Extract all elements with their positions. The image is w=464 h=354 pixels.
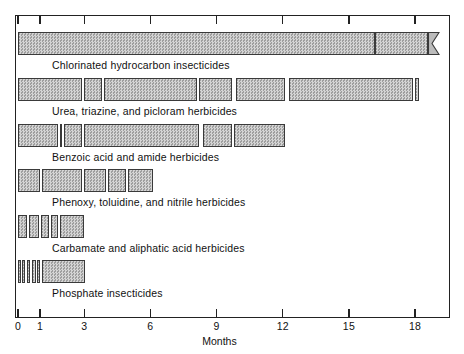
tick-bottom-1 [39,309,40,318]
tick-bottom-9 [216,309,217,318]
bar-segment [18,124,58,147]
tick-bottom-6 [150,309,151,318]
tick-top-0 [17,15,18,24]
tick-top-3 [84,15,85,24]
bar-segment [234,124,285,147]
tick-label-12: 12 [277,320,289,332]
row-label-phosphate-insecticides: Phosphate insecticides [52,287,163,299]
bar-segment [289,78,413,101]
bar-segment [375,32,428,55]
tick-top-15 [348,15,349,24]
tick-label-0: 0 [15,320,21,332]
bar-segment [18,78,82,101]
bar-segment [60,124,62,147]
row-label-benzoic-acid-amide-herbicides: Benzoic acid and amide herbicides [52,151,219,163]
row-label-chlorinated-hydrocarbon-insecticides: Chlorinated hydrocarbon insecticides [52,59,230,71]
tick-top-6 [150,15,151,24]
bar-segment [41,215,49,238]
bar-segment [60,215,84,238]
tick-bottom-18 [414,309,415,318]
tick-top-9 [216,15,217,24]
bar-segment [415,78,419,101]
tick-label-3: 3 [81,320,87,332]
tick-top-12 [282,15,283,24]
tick-bottom-0 [17,309,18,318]
persistence-bar-chart: Chlorinated hydrocarbon insecticides Ure… [0,0,464,354]
bar-segment [42,169,82,192]
row-label-phenoxy-toluidine-nitrile-herbicides: Phenoxy, toluidine, and nitrile herbicid… [52,196,245,208]
bar-segment [199,78,232,101]
bar-segment [32,260,36,283]
row-label-carbamate-aliphatic-acid-herbicides: Carbamate and aliphatic acid herbicides [52,242,245,254]
x-axis-title-text: Months [202,335,236,347]
bar-segment [236,78,285,101]
x-axis-title: Months [0,335,464,347]
tick-label-18: 18 [409,320,421,332]
bar-segment [22,260,25,283]
bar-segment [18,32,375,55]
bar-segment [203,124,232,147]
bar-segment [29,215,38,238]
tick-top-18 [414,15,415,24]
tick-top-1 [39,15,40,24]
row-label-urea-triazine-picloram-herbicides: Urea, triazine, and picloram herbicides [52,105,237,117]
bar-segment [51,215,58,238]
bar-segment [104,78,197,101]
bar-segment [128,169,152,192]
tick-label-9: 9 [214,320,220,332]
tick-label-1: 1 [37,320,43,332]
bar-segment [84,169,106,192]
bar-segment [84,124,199,147]
tick-label-6: 6 [147,320,153,332]
bar-segment [18,260,21,283]
tick-bottom-3 [84,309,85,318]
bar-segment [37,260,40,283]
tick-bottom-12 [282,309,283,318]
bar-segment [84,78,102,101]
bar-segment [108,169,126,192]
bar-segment [18,169,40,192]
tick-label-15: 15 [343,320,355,332]
axis-break-arrow-icon [428,32,441,55]
bar-segment [42,260,85,283]
bar-segment [18,215,27,238]
bar-segment [64,124,82,147]
bar-segment [27,260,31,283]
tick-bottom-15 [348,309,349,318]
